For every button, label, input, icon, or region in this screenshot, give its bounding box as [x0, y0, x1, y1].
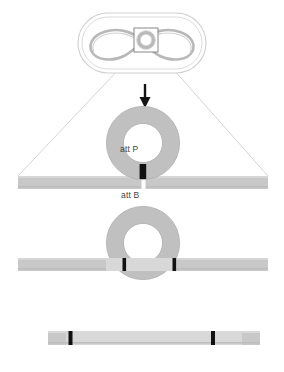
integrated-segment-right	[144, 258, 176, 271]
att-site-left-final	[69, 331, 73, 345]
diagram-canvas	[0, 0, 284, 372]
recombination-diagram: att P att B	[0, 0, 284, 372]
plasmid-ring	[106, 106, 179, 179]
att-b-label: att B	[121, 190, 139, 200]
integration-intermediate	[18, 206, 268, 279]
att-p-site	[140, 164, 147, 179]
integrated-chromosome-band	[48, 331, 260, 345]
plasmid-box	[134, 28, 158, 52]
magnification-trapezoid	[18, 106, 268, 345]
att-site-left-intermediate	[123, 258, 127, 271]
att-site-right-final	[211, 331, 215, 345]
att-site-right-intermediate	[173, 258, 177, 271]
bacterial-cell	[78, 13, 206, 73]
att-p-label: att P	[120, 144, 138, 154]
integration-arrow	[140, 84, 151, 108]
